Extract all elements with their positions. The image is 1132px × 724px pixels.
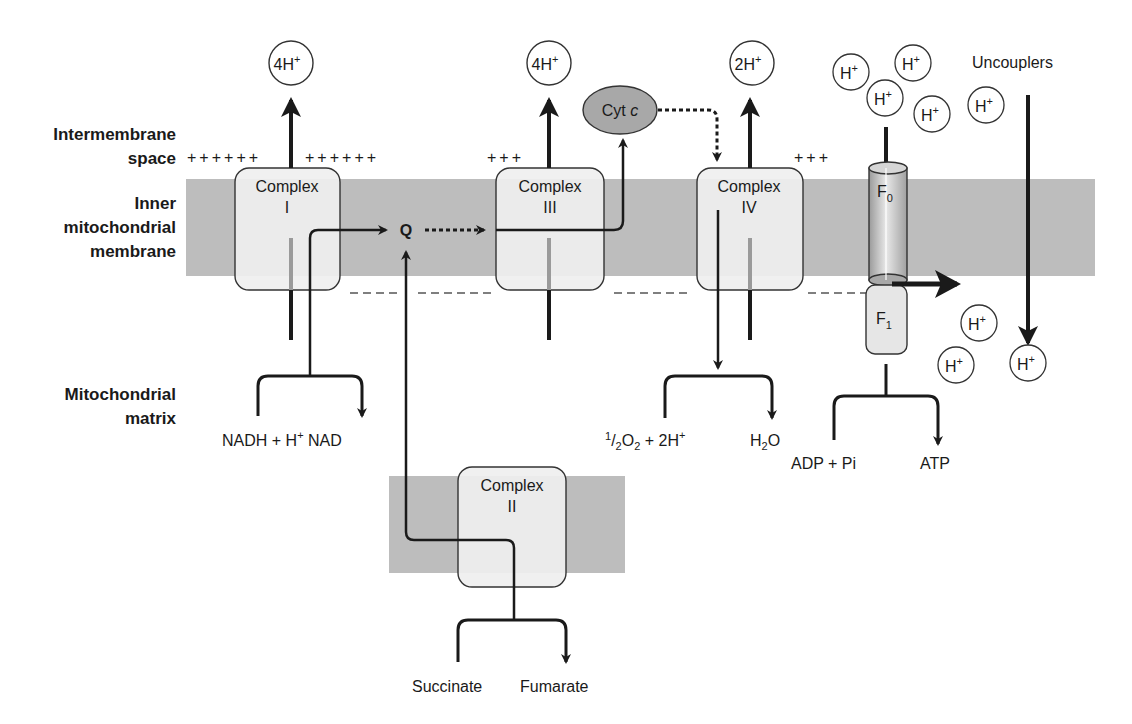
proton: H+ [968,87,1004,123]
label-mito-matrix: Mitochondrial [65,385,176,404]
complex-4-numeral: IV [741,199,756,216]
complex-4-name: Complex [717,178,780,195]
complex-2-name: Complex [480,477,543,494]
oxygen-label: 1/2O2 + 2H+ [605,429,685,452]
proton: H+ [895,45,931,81]
proton: H+ [867,80,903,116]
complex-2: Complex II [458,467,566,587]
nadh-label: NADH + H+ NAD [222,429,342,449]
fumarate-label: Fumarate [520,678,589,695]
charge-mid: +++ [487,149,524,166]
oxygen-branch [665,376,772,418]
complex-2-numeral: II [508,498,517,515]
f1-subunit: F1 [866,285,907,354]
label-space: space [128,149,176,168]
succinate-branch [458,620,566,662]
proton-pump-1: 4H+ [269,41,313,85]
uncouplers-label: Uncouplers [972,54,1053,71]
cytc-to-complex4-dotted [658,110,717,160]
label-inner: Inner [134,194,176,213]
charge-right: +++ [794,149,831,166]
complex-1-numeral: I [285,199,289,216]
atp-label: ATP [920,455,950,472]
ubiquinone-q: Q [400,222,412,239]
proton: H+ [833,54,869,90]
label-matrix: matrix [125,409,177,428]
complex-1-name: Complex [255,178,318,195]
complex-3-name: Complex [518,178,581,195]
label-membrane: membrane [90,242,176,261]
label-intermembrane: Intermembrane [53,125,176,144]
water-label: H2O [750,432,780,452]
region-labels: Intermembrane space Inner mitochondrial … [53,125,176,428]
proton: H+ [961,305,997,341]
proton-pump-4: 2H+ [730,41,774,85]
succinate-label: Succinate [412,678,482,695]
proton-pump-3: 4H+ [527,41,571,85]
charge-left-b: ++++++ [305,149,379,166]
charge-left-a: ++++++ [187,149,261,166]
svg-text:Cyt c: Cyt c [602,102,638,119]
proton: H+ [938,347,974,383]
cytochrome-c: Cyt c [583,86,657,134]
proton: H+ [1010,345,1046,381]
nadh-branch [258,376,362,416]
f0-subunit: F0 [869,162,907,286]
atp-branch [834,396,938,444]
label-mitochondrial: mitochondrial [64,218,176,237]
adp-label: ADP + Pi [791,455,856,472]
proton: H+ [914,96,950,132]
etc-diagram: Intermembrane space Inner mitochondrial … [0,0,1132,724]
complex-3-numeral: III [543,199,556,216]
